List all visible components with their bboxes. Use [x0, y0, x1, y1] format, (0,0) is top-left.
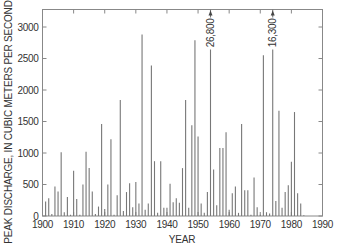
arrow-up-icon — [209, 11, 213, 16]
x-tick-label: 1930 — [125, 219, 147, 230]
x-tick-label: 1990 — [312, 219, 334, 230]
x-tick-label: 1950 — [188, 219, 210, 230]
x-axis-title: YEAR — [169, 234, 195, 245]
y-tick-label: 500 — [23, 179, 40, 190]
x-tick-label: 1940 — [156, 219, 178, 230]
y-tick-label: 1000 — [17, 148, 39, 159]
x-tick-label: 1920 — [94, 219, 116, 230]
off-scale-annotations: 26,80016,300 — [205, 11, 278, 50]
x-tick-label: 1900 — [32, 219, 54, 230]
y-tick-label: 2000 — [17, 85, 39, 96]
y-tick-label: 2500 — [17, 53, 39, 64]
y-tick-label: 1500 — [17, 116, 39, 127]
y-tick-label: 3000 — [17, 22, 39, 33]
arrow-up-icon — [271, 11, 275, 16]
x-tick-label: 1980 — [281, 219, 303, 230]
x-tick-label: 1970 — [250, 219, 272, 230]
discharge-bars — [46, 10, 304, 217]
peak-discharge-chart: 050010001500200025003000 190019101920193… — [0, 0, 338, 252]
off-scale-label: 26,800 — [205, 18, 216, 48]
off-scale-label: 16,300 — [267, 18, 278, 48]
y-axis-title: PEAK DISCHARGE, IN CUBIC METERS PER SECO… — [3, 0, 14, 243]
x-tick-label: 1960 — [219, 219, 241, 230]
x-tick-label: 1910 — [63, 219, 85, 230]
